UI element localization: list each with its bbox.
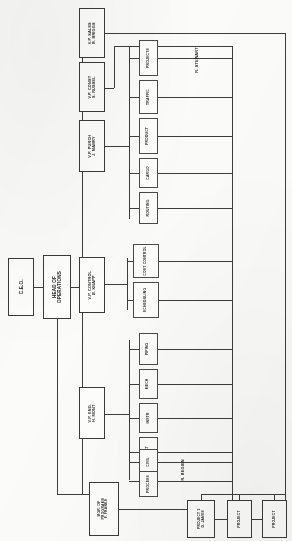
rail-right-outer xyxy=(285,33,286,505)
link-vp-const-out xyxy=(114,46,232,47)
box-fn-routing[interactable]: ROUTING xyxy=(139,192,158,224)
link-eng-process xyxy=(129,481,139,482)
link-product-rail xyxy=(158,136,232,137)
box-fn-traffic[interactable]: TRAFFIC xyxy=(139,80,158,114)
box-vp-sales[interactable]: V.P. SALES B. BRIGGS xyxy=(79,8,105,58)
vp-eng-line1: V.P. ENG. xyxy=(88,404,92,422)
ceo-title: C.E.O. xyxy=(18,280,23,295)
link-civil-rail xyxy=(158,462,232,463)
link-vp-const-riser xyxy=(114,46,115,88)
vp-purch-line1: V.P. PURCH xyxy=(88,135,92,158)
box-fn-process[interactable]: PROCESS xyxy=(139,471,158,497)
link-traffic-rail xyxy=(158,97,232,98)
annot-stewart: R. STEWART xyxy=(195,47,199,72)
fn-traffic-label: TRAFFIC xyxy=(147,89,151,105)
box-project-3[interactable]: PROJECT xyxy=(262,500,287,538)
project-1-line2: D. JAMES xyxy=(200,510,204,528)
link-purch-cargo xyxy=(129,173,139,174)
vp-const-line1: V.P. CONST xyxy=(88,76,92,99)
link-programs-to-projects xyxy=(119,509,187,510)
box-fn-cost-control[interactable]: COST CONTROL xyxy=(133,244,159,278)
link-vp-eng-out xyxy=(105,414,129,415)
vp-control-label: V.P. CONTROL B. KNAPP xyxy=(88,271,96,300)
box-fn-piping[interactable]: PIPING xyxy=(139,333,158,365)
purch-spine xyxy=(129,47,130,219)
link-instr-rail xyxy=(158,418,232,419)
vp-const-label: V.P. CONST S. RUSSEL xyxy=(88,76,96,99)
vp-control-line1: V.P. CONTROL xyxy=(88,271,92,300)
link-elect-rail xyxy=(158,452,232,453)
fn-product-label: PRODUCT xyxy=(147,127,151,145)
link-eng-mech xyxy=(129,384,139,385)
link-cargo-rail xyxy=(158,173,232,174)
box-vp-eng[interactable]: V.P. ENG. H. MONT xyxy=(79,387,105,439)
box-fn-mech[interactable]: MECH xyxy=(139,369,158,399)
link-vp-sales-out xyxy=(105,33,285,34)
box-fn-instr[interactable]: INSTR xyxy=(139,403,158,433)
vp-const-line2: S. RUSSEL xyxy=(92,76,96,98)
link-head-to-programs-vert xyxy=(57,319,58,494)
fn-instr-label: INSTR xyxy=(147,412,151,423)
fn-scheduling-label: SCHEDULING xyxy=(144,288,148,312)
vp-purch-line2: J. MABRY xyxy=(92,136,96,156)
link-project2-project3 xyxy=(252,519,262,520)
link-project1-project2 xyxy=(215,519,227,520)
head-of-operations-line2: OPERATIONS xyxy=(57,271,62,303)
fn-piping-label: PIPING xyxy=(147,343,151,356)
link-purch-projects xyxy=(129,58,139,59)
box-project-1[interactable]: PROJECT 1 D. JAMES xyxy=(187,500,215,538)
box-ceo[interactable]: C.E.O. xyxy=(8,258,34,316)
link-eng-instr xyxy=(129,418,139,419)
link-mech-rail xyxy=(158,384,232,385)
link-vp-control-out xyxy=(105,284,127,285)
org-chart-canvas: C.E.O. HEAD OF OPERATIONS V.P. SALES B. … xyxy=(0,0,292,541)
fn-projects-label: PROJECTS xyxy=(147,48,151,68)
project-top-rail xyxy=(201,494,285,495)
link-purch-traffic xyxy=(129,97,139,98)
annot-begien: R. BEGIEN xyxy=(181,459,185,480)
eng-spine xyxy=(129,340,130,480)
link-purch-product xyxy=(129,136,139,137)
vp-sales-line2: B. BRIGGS xyxy=(92,22,96,44)
box-vp-control[interactable]: V.P. CONTROL B. KNAPP xyxy=(79,257,105,313)
vp-eng-line2: H. MONT xyxy=(92,404,96,421)
link-eng-civil xyxy=(129,462,139,463)
link-scheduling-rail xyxy=(159,300,232,301)
vp-control-line2: B. KNAPP xyxy=(92,275,96,295)
box-fn-projects[interactable]: PROJECTS xyxy=(139,40,158,76)
link-process-rail xyxy=(158,481,232,482)
vp-eng-label: V.P. ENG. H. MONT xyxy=(88,404,96,422)
link-routing-rail xyxy=(158,208,232,209)
link-vp-purch-out xyxy=(105,146,129,147)
head-of-operations-label: HEAD OF OPERATIONS xyxy=(52,271,62,303)
fn-process-label: PROCESS xyxy=(147,475,151,493)
vp-sales-label: V.P. SALES B. BRIGGS xyxy=(88,22,96,44)
link-ceo-to-head xyxy=(34,287,43,288)
fn-mech-label: MECH xyxy=(147,379,151,390)
box-mgr-programs[interactable]: MGR. OF PROGRAMS F. FRANKS xyxy=(89,482,119,536)
vp-purch-label: V.P. PURCH J. MABRY xyxy=(88,135,96,158)
link-eng-elect xyxy=(129,452,139,453)
box-head-of-operations[interactable]: HEAD OF OPERATIONS xyxy=(43,255,71,319)
mgr-programs-line3: F. FRANKS xyxy=(105,499,109,519)
fn-cost-control-label: COST CONTROL xyxy=(144,246,148,276)
link-head-to-programs-horz xyxy=(57,494,89,495)
project-3-label: PROJECT xyxy=(273,510,277,527)
link-control-scheduling xyxy=(127,300,133,301)
box-vp-purch[interactable]: V.P. PURCH J. MABRY xyxy=(79,120,105,172)
project-1-label: PROJECT 1 D. JAMES xyxy=(197,509,204,530)
box-fn-cargo[interactable]: CARGO xyxy=(139,158,158,188)
box-vp-const[interactable]: V.P. CONST S. RUSSEL xyxy=(79,62,105,112)
box-fn-scheduling[interactable]: SCHEDULING xyxy=(133,282,159,318)
fn-civil-label: CIVIL xyxy=(147,457,151,467)
link-cost-rail xyxy=(159,261,232,262)
box-fn-product[interactable]: PRODUCT xyxy=(139,118,158,154)
box-project-2[interactable]: PROJECT xyxy=(227,500,252,538)
link-control-cost xyxy=(127,261,133,262)
link-vp-const-stub xyxy=(105,88,114,89)
fn-routing-label: ROUTING xyxy=(147,199,151,216)
project-2-label: PROJECT xyxy=(238,510,242,527)
rail-right-inner xyxy=(232,46,233,505)
link-piping-rail xyxy=(158,349,232,350)
mgr-programs-label: MGR. OF PROGRAMS F. FRANKS xyxy=(98,498,109,520)
